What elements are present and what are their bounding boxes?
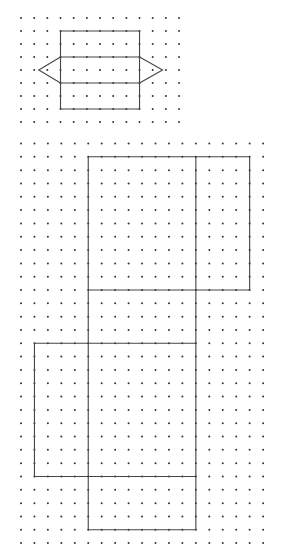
edge-line: [140, 57, 163, 83]
prism-net-small-figure: [20, 17, 180, 123]
box-net-large-figure: [20, 143, 264, 545]
net-outline: [34, 157, 249, 530]
dot-grid: [20, 17, 180, 123]
dot-grid-canvas: [0, 0, 292, 550]
edge-line: [39, 57, 61, 83]
